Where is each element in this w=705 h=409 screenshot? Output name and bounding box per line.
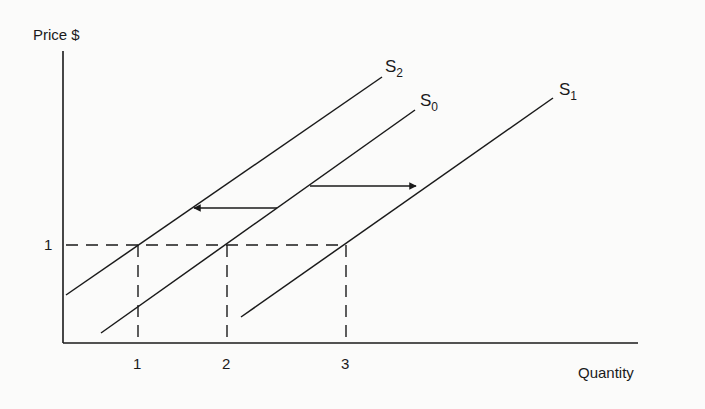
x-axis-label: Quantity xyxy=(578,364,634,381)
supply-shift-diagram: Price $ Quantity 1 1 2 3 S2 S0 S1 xyxy=(0,0,705,409)
x-tick-label-2: 2 xyxy=(222,355,230,372)
curve-label-s2: S2 xyxy=(385,57,403,80)
x-tick-label-3: 3 xyxy=(341,355,349,372)
supply-curve-s0 xyxy=(101,110,415,333)
curve-label-s1: S1 xyxy=(559,80,577,103)
x-tick-label-1: 1 xyxy=(133,355,141,372)
y-axis-label: Price $ xyxy=(33,26,80,43)
supply-curve-s1 xyxy=(241,98,553,317)
y-tick-label-1: 1 xyxy=(44,236,52,253)
curve-label-s0: S0 xyxy=(420,91,438,114)
